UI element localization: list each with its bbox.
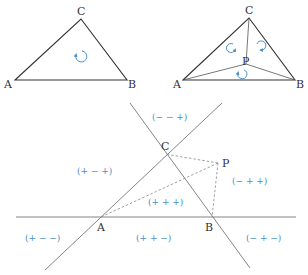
vertex-label-c: C xyxy=(245,4,253,17)
region-label-bottom-right: (− + −) xyxy=(246,233,281,243)
rotation-icon-pab xyxy=(238,70,247,79)
point-label-p: P xyxy=(242,55,250,68)
rotation-icon-pca xyxy=(226,44,235,53)
vertex-label-a: A xyxy=(172,78,182,91)
point-label-p: P xyxy=(222,157,230,170)
diagram-canvas: A B C A B C P A B C P (− − +) xyxy=(0,0,308,275)
segment-pb xyxy=(246,64,295,80)
dashed-segment-pb xyxy=(212,163,218,217)
point-label-a: A xyxy=(96,221,106,234)
counterclockwise-rotation-icon xyxy=(76,51,87,62)
dashed-segment-pa xyxy=(101,163,218,217)
line-ac xyxy=(45,103,222,270)
rotation-icon-pbc xyxy=(257,41,266,50)
point-label-b: B xyxy=(205,221,213,234)
vertex-label-c: C xyxy=(77,5,85,18)
figure-triangle-abc: A B C xyxy=(3,5,136,91)
triangle-abc-outer xyxy=(183,18,295,80)
segment-pa xyxy=(183,64,246,80)
point-label-c: C xyxy=(161,140,169,153)
region-label-right: (− + +) xyxy=(232,176,267,186)
vertex-label-a: A xyxy=(3,78,13,91)
vertex-label-b: B xyxy=(128,78,136,91)
triangle-abc xyxy=(15,19,127,80)
region-label-inside: (+ + +) xyxy=(148,197,183,207)
region-label-left: (+ − +) xyxy=(77,166,112,176)
figure-sign-regions: A B C P (− − +) (+ − +) (+ + +) (− + +) … xyxy=(16,103,296,270)
region-label-top: (− − +) xyxy=(152,112,187,122)
vertex-label-b: B xyxy=(296,78,304,91)
region-label-bottom-middle: (+ + −) xyxy=(136,233,171,243)
figure-triangle-with-point-p: A B C P xyxy=(172,4,304,91)
region-label-bottom-left: (+ − −) xyxy=(25,233,60,243)
